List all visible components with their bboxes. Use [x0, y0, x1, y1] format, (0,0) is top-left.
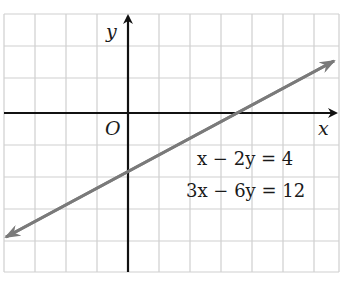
equation-2: 3x − 6y = 12	[186, 180, 305, 201]
graph: y x O x − 2y = 4 3x − 6y = 12	[0, 0, 348, 281]
x-axis-label: x	[318, 117, 329, 139]
equation-1: x − 2y = 4	[197, 148, 293, 169]
y-axis-label: y	[106, 20, 117, 42]
grid-lines	[4, 14, 339, 272]
origin-label: O	[105, 117, 121, 139]
grid-and-line	[0, 0, 348, 281]
